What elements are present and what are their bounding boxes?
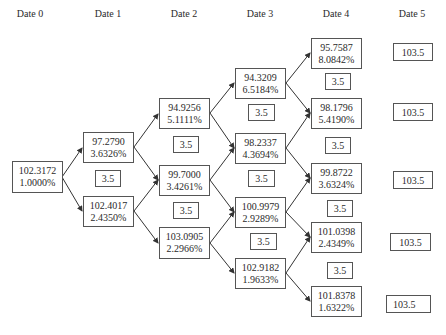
node-d3-0: 94.3209 6.5184% (235, 68, 286, 99)
node-rate: 5.4190% (319, 114, 355, 126)
node-price: 103.0905 (166, 231, 204, 243)
node-price: 98.2337 (244, 137, 277, 149)
node-rate: 2.2966% (167, 243, 203, 255)
node-d5-4: 103.5 (386, 295, 431, 313)
node-d1-1: 102.4017 2.4350% (83, 196, 134, 227)
coupon-d4-3: 3.5 (327, 262, 353, 279)
coupon-d4-1: 3.5 (325, 137, 351, 154)
node-rate: 5.1111% (167, 114, 202, 126)
coupon-d3-0: 3.5 (248, 104, 275, 121)
node-d2-0: 94.9256 5.1111% (159, 98, 210, 129)
node-d5-0: 103.5 (393, 43, 433, 61)
node-d4-2: 99.8722 3.6324% (311, 163, 362, 194)
node-price: 102.9182 (242, 262, 280, 274)
coupon-d2-0: 3.5 (173, 136, 199, 153)
node-price: 95.7587 (320, 42, 353, 54)
node-price: 94.3209 (244, 72, 277, 84)
tree-edges (0, 0, 446, 335)
coupon-d2-1: 3.5 (173, 202, 199, 219)
node-d0-0: 102.3172 1.0000% (12, 161, 63, 193)
node-rate: 2.4349% (319, 238, 355, 250)
node-d1-0: 97.2790 3.6326% (83, 132, 134, 163)
node-rate: 1.6322% (319, 302, 355, 314)
node-d4-4: 101.8378 1.6322% (311, 286, 362, 317)
node-d3-1: 98.2337 4.3694% (235, 133, 286, 164)
node-rate: 6.5184% (243, 84, 279, 96)
node-price: 97.2790 (92, 136, 125, 148)
node-d4-1: 98.1796 5.4190% (311, 98, 362, 129)
node-d4-0: 95.7587 8.0842% (311, 38, 362, 69)
node-rate: 3.4261% (167, 181, 203, 193)
coupon-d3-2: 3.5 (250, 233, 277, 250)
node-rate: 4.3694% (243, 149, 279, 161)
coupon-d3-1: 3.5 (248, 170, 275, 187)
node-price: 99.8722 (320, 167, 353, 179)
node-price: 100.9979 (242, 201, 280, 213)
node-price: 94.9256 (168, 102, 201, 114)
node-rate: 1.9633% (243, 274, 279, 286)
node-price: 101.0398 (318, 226, 356, 238)
node-d2-1: 99.7000 3.4261% (159, 165, 210, 196)
node-d3-3: 102.9182 1.9633% (235, 258, 286, 289)
node-rate: 8.0842% (319, 54, 355, 66)
coupon-d1-0: 3.5 (95, 170, 121, 187)
node-price: 102.3172 (19, 165, 57, 177)
node-d5-1: 103.5 (393, 103, 433, 121)
node-d3-2: 100.9979 2.9289% (235, 197, 286, 228)
node-rate: 1.0000% (20, 177, 56, 189)
node-price: 102.4017 (90, 200, 128, 212)
node-d4-3: 101.0398 2.4349% (311, 222, 362, 253)
node-price: 99.7000 (168, 169, 201, 181)
node-d5-3: 103.5 (390, 233, 431, 251)
node-price: 101.8378 (318, 290, 356, 302)
node-rate: 2.4350% (91, 212, 127, 224)
node-rate: 3.6324% (319, 179, 355, 191)
node-rate: 2.9289% (243, 213, 279, 225)
node-d2-2: 103.0905 2.2966% (159, 227, 210, 259)
node-d5-2: 103.5 (393, 171, 433, 189)
node-price: 98.1796 (320, 102, 353, 114)
node-rate: 3.6326% (91, 148, 127, 160)
coupon-d4-0: 3.5 (325, 73, 351, 90)
coupon-d4-2: 3.5 (327, 200, 353, 217)
